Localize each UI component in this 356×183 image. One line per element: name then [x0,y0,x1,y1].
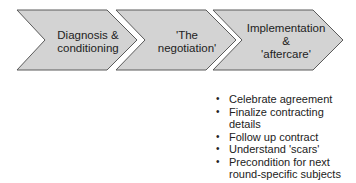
stage-2-label: 'The negotiation' [146,29,228,55]
list-item: Finalize contracting details [216,106,346,131]
stage-3-label: Implementation & 'aftercare' [244,22,328,61]
stage-1-label: Diagnosis & conditioning [48,29,128,55]
stage-3-details-list: Celebrate agreement Finalize contracting… [216,93,346,181]
list-item: Understand 'scars' [216,143,346,156]
list-item: Celebrate agreement [216,93,346,106]
list-item: Follow up contract [216,131,346,144]
list-item: Precondition for next round-specific sub… [216,156,346,181]
